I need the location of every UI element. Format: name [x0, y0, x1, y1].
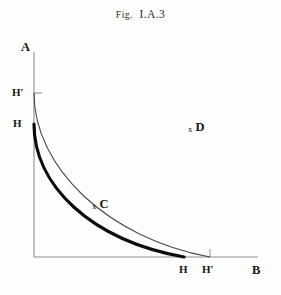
figure-page: Fig. I.A.3 A B H′ H H H′ xC xD — [0, 0, 281, 295]
curve-outer-hprime — [34, 93, 210, 257]
tick-label-left-h-prime: H′ — [12, 87, 24, 98]
region-marker-c-label: C — [100, 197, 109, 211]
tick-label-bottom-h: H — [179, 264, 188, 275]
tick-label-bottom-h-prime: H′ — [202, 264, 214, 275]
axis-label-a: A — [21, 41, 30, 54]
figure-plot — [0, 0, 281, 295]
tick-label-left-h: H — [13, 118, 22, 129]
cross-mark-icon: x — [188, 124, 193, 134]
cross-mark-icon: x — [92, 201, 97, 211]
region-marker-d-label: D — [196, 120, 205, 134]
curve-inner-h — [34, 124, 184, 257]
region-marker-c: xC — [92, 196, 109, 212]
region-marker-d: xD — [188, 119, 205, 135]
axis-label-b: B — [252, 264, 260, 277]
